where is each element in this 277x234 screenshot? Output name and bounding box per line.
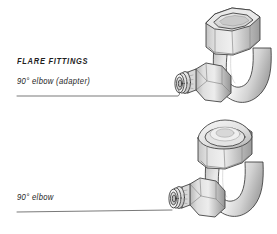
upper-flare-adapter	[175, 63, 231, 102]
lower-flare-nut	[169, 178, 225, 217]
lower-domed-hex-nut	[198, 120, 252, 169]
upper-hex-nut	[206, 8, 260, 55]
leader-line-lower	[17, 210, 172, 212]
flare-fitting-upper-illustration	[0, 0, 277, 234]
leader-line-upper	[17, 90, 180, 96]
figure-canvas: FLARE FITTINGS 90° elbow (adapter) 90° e…	[0, 0, 277, 234]
